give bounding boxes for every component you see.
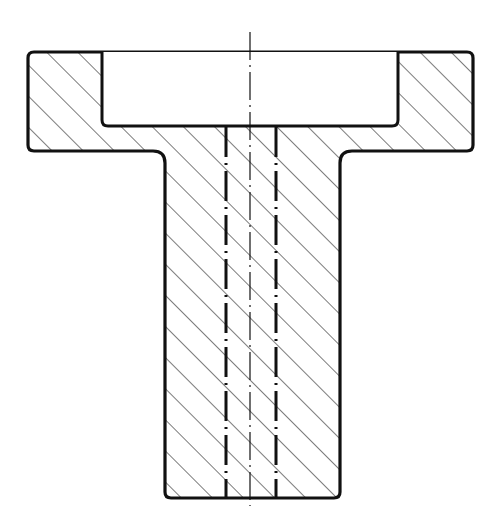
cross-section-drawing xyxy=(0,0,493,515)
